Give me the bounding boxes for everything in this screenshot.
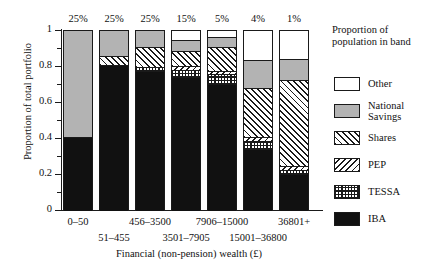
bar-segment-national-savings[interactable] — [100, 31, 128, 56]
legend-item-other[interactable]: Other — [334, 72, 430, 96]
legend-item-label: National Savings — [368, 100, 404, 123]
legend-item-label: TESSA — [368, 186, 400, 198]
y-tick-label: 0.4 — [39, 132, 52, 142]
bar-segment-shares[interactable] — [208, 47, 236, 70]
bar-5[interactable] — [207, 30, 237, 210]
legend-swatch-icon — [334, 185, 360, 199]
bar-4[interactable] — [171, 30, 201, 210]
y-tick-label: 0 — [47, 204, 52, 214]
bar-segment-tessa[interactable] — [172, 70, 200, 77]
legend-item-national-savings[interactable]: National Savings — [334, 99, 430, 123]
legend-title: Proportion of population in band — [332, 24, 428, 48]
stacked-bar-chart-figure: Proportion of total portfolio 00.20.40.6… — [0, 0, 430, 270]
legend-swatch-icon — [334, 158, 360, 172]
bar-3[interactable] — [135, 30, 165, 210]
bar-segment-national-savings[interactable] — [280, 59, 308, 80]
x-tick-label: 15001–36800 — [212, 232, 304, 243]
population-share-label: 25% — [99, 13, 129, 24]
legend-item-shares[interactable]: Shares — [334, 126, 430, 150]
bar-segment-national-savings[interactable] — [64, 31, 92, 137]
legend-swatch-icon — [334, 212, 360, 226]
y-tick-major — [55, 102, 62, 103]
bar-7[interactable] — [279, 30, 309, 210]
bar-segment-iba[interactable] — [172, 77, 200, 211]
y-tick-major — [55, 66, 62, 67]
bar-segment-national-savings[interactable] — [244, 60, 272, 88]
plot-area: 25%25%25%15%5%4%1% — [63, 30, 315, 210]
bar-segment-tessa[interactable] — [244, 141, 272, 149]
legend-item-iba[interactable]: IBA — [334, 207, 430, 231]
y-tick-minor — [57, 84, 62, 85]
legend-swatch-icon — [334, 77, 360, 91]
legend-item-pep[interactable]: PEP — [334, 153, 430, 177]
y-tick-label: 0.8 — [39, 60, 52, 70]
legend-title-line-2: population in band — [332, 36, 428, 48]
bar-segment-national-savings[interactable] — [208, 37, 236, 47]
legend-swatch-icon — [334, 131, 360, 145]
y-tick-minor — [57, 192, 62, 193]
y-tick-minor — [57, 120, 62, 121]
y-tick-label: 1 — [47, 24, 52, 34]
bar-segment-tessa[interactable] — [208, 74, 236, 84]
legend-item-label: Other — [368, 78, 392, 90]
legend-swatch-icon — [334, 104, 360, 118]
legend-item-label: IBA — [368, 213, 386, 225]
population-share-label: 4% — [243, 13, 273, 24]
bar-segment-shares[interactable] — [280, 80, 308, 166]
y-tick-minor — [57, 156, 62, 157]
y-tick-label: 0.6 — [39, 96, 52, 106]
population-share-label: 1% — [279, 13, 309, 24]
bar-segment-shares[interactable] — [172, 51, 200, 66]
bar-segment-iba[interactable] — [280, 174, 308, 211]
bar-2[interactable] — [99, 30, 129, 210]
population-share-label: 25% — [135, 13, 165, 24]
bar-segment-iba[interactable] — [64, 137, 92, 211]
bar-segment-iba[interactable] — [136, 71, 164, 211]
y-tick-minor — [57, 48, 62, 49]
population-share-label: 25% — [63, 13, 93, 24]
bar-segment-iba[interactable] — [208, 84, 236, 211]
legend-title-line-1: Proportion of — [332, 24, 428, 36]
bar-segment-iba[interactable] — [100, 65, 128, 211]
y-tick-major — [55, 174, 62, 175]
y-axis-title: Proportion of total portfolio — [22, 22, 33, 182]
bar-segment-other[interactable] — [172, 31, 200, 40]
bar-1[interactable] — [63, 30, 93, 210]
bar-segment-national-savings[interactable] — [136, 31, 164, 47]
y-tick-major — [55, 210, 62, 211]
legend: OtherNational SavingsSharesPEPTESSAIBA — [334, 72, 430, 234]
x-tick-label: 36801+ — [248, 216, 340, 227]
bar-segment-shares[interactable] — [136, 47, 164, 67]
legend-item-tessa[interactable]: TESSA — [334, 180, 430, 204]
legend-item-label: PEP — [368, 159, 386, 171]
y-tick-major — [55, 138, 62, 139]
bar-segment-shares[interactable] — [100, 56, 128, 65]
y-tick-major — [55, 30, 62, 31]
bar-6[interactable] — [243, 30, 273, 210]
population-share-label: 15% — [171, 13, 201, 24]
x-axis-title: Financial (non-pension) wealth (£) — [63, 248, 315, 259]
population-share-label: 5% — [207, 13, 237, 24]
bar-segment-other[interactable] — [244, 31, 272, 60]
y-tick-label: 0.2 — [39, 168, 52, 178]
bar-segment-shares[interactable] — [244, 88, 272, 138]
bar-segment-other[interactable] — [280, 31, 308, 59]
bar-segment-iba[interactable] — [244, 149, 272, 211]
legend-item-label: Shares — [368, 132, 396, 144]
bar-segment-national-savings[interactable] — [172, 40, 200, 51]
